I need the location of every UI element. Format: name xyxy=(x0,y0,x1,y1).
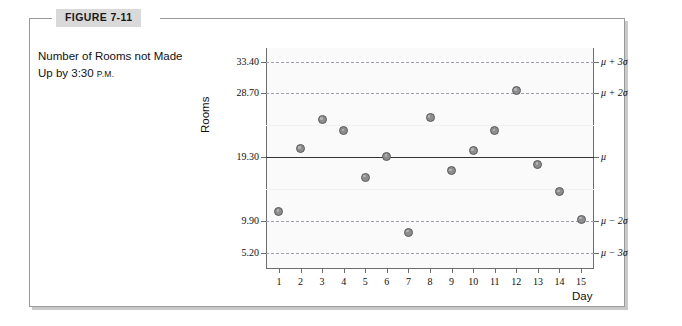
x-tick-mark xyxy=(473,268,474,273)
x-tick-mark xyxy=(365,268,366,273)
x-tick-label: 11 xyxy=(486,276,504,287)
control-line-2 xyxy=(266,221,594,222)
frame-shadow-bottom xyxy=(32,307,628,310)
x-tick-mark xyxy=(322,268,323,273)
x-tick-label: 13 xyxy=(529,276,547,287)
control-chart: Rooms Day 33.4028.7019.309.905.20 μ + 3σ… xyxy=(215,38,615,298)
y-tick-mark xyxy=(261,221,266,222)
control-line-1 xyxy=(266,189,594,190)
y-tick-mark xyxy=(261,157,266,158)
data-point xyxy=(361,173,370,182)
x-tick-label: 1 xyxy=(270,276,288,287)
sigma-label: μ xyxy=(601,151,606,162)
y-tick-mark-right xyxy=(594,157,599,158)
x-tick-mark xyxy=(495,268,496,273)
x-tick-label: 2 xyxy=(292,276,310,287)
sigma-label: μ + 3σ xyxy=(601,56,628,67)
figure-screenshot: FIGURE 7-11 Number of Rooms not Made Up … xyxy=(0,0,682,326)
sigma-label: μ + 2σ xyxy=(601,87,628,98)
data-point xyxy=(469,146,478,155)
x-axis-title: Day xyxy=(572,290,592,302)
y-tick-label: 28.70 xyxy=(215,87,259,98)
y-tick-mark-right xyxy=(594,221,599,222)
x-tick-mark xyxy=(538,268,539,273)
caption-line-2-text: Up by 3:30 xyxy=(38,67,97,79)
x-tick-label: 14 xyxy=(550,276,568,287)
y-tick-mark xyxy=(261,93,266,94)
y-tick-label: 9.90 xyxy=(215,215,259,226)
data-point xyxy=(577,215,586,224)
figure-number-tag: FIGURE 7-11 xyxy=(56,9,141,27)
y-tick-label: 19.30 xyxy=(215,151,259,162)
control-line- xyxy=(266,157,594,158)
x-tick-label: 8 xyxy=(421,276,439,287)
sigma-label: μ − 3σ xyxy=(601,247,628,258)
y-tick-mark-right xyxy=(594,253,599,254)
control-line-1 xyxy=(266,125,594,126)
x-tick-mark xyxy=(452,268,453,273)
caption-line-1: Number of Rooms not Made xyxy=(38,48,228,65)
x-tick-label: 15 xyxy=(572,276,590,287)
data-point xyxy=(426,113,435,122)
control-line-2 xyxy=(266,93,594,94)
x-tick-mark xyxy=(301,268,302,273)
x-tick-label: 6 xyxy=(378,276,396,287)
x-tick-mark xyxy=(408,268,409,273)
caption-pm-smallcaps: P.M. xyxy=(97,69,115,79)
control-line-3 xyxy=(266,253,594,254)
x-tick-mark xyxy=(430,268,431,273)
x-tick-mark xyxy=(559,268,560,273)
y-axis-title: Rooms xyxy=(199,97,211,133)
x-tick-mark xyxy=(516,268,517,273)
y-tick-mark xyxy=(261,253,266,254)
x-tick-mark xyxy=(344,268,345,273)
y-tick-label: 33.40 xyxy=(215,56,259,67)
x-tick-mark xyxy=(581,268,582,273)
y-tick-mark xyxy=(261,62,266,63)
x-tick-mark xyxy=(387,268,388,273)
data-point xyxy=(404,228,413,237)
x-tick-label: 10 xyxy=(464,276,482,287)
x-tick-label: 7 xyxy=(399,276,417,287)
figure-caption: Number of Rooms not Made Up by 3:30 P.M. xyxy=(38,48,228,81)
x-tick-label: 9 xyxy=(443,276,461,287)
data-point xyxy=(296,144,305,153)
data-point xyxy=(318,115,327,124)
caption-line-2: Up by 3:30 P.M. xyxy=(38,65,228,82)
x-tick-label: 12 xyxy=(507,276,525,287)
control-line-3 xyxy=(266,62,594,63)
sigma-label: μ − 2σ xyxy=(601,215,628,226)
x-tick-label: 3 xyxy=(313,276,331,287)
x-tick-mark xyxy=(279,268,280,273)
x-tick-label: 4 xyxy=(335,276,353,287)
y-tick-label: 5.20 xyxy=(215,247,259,258)
x-tick-label: 5 xyxy=(356,276,374,287)
y-tick-mark-right xyxy=(594,93,599,94)
y-tick-mark-right xyxy=(594,62,599,63)
